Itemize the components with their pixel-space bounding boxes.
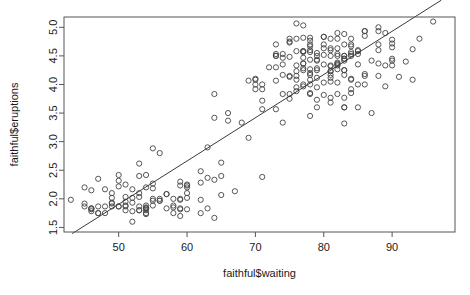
y-tick-label: 4.0: [47, 77, 59, 92]
y-tick-label: 1.5: [47, 220, 59, 235]
x-tick-label: 60: [181, 241, 193, 253]
figure-background: [0, 0, 470, 295]
y-tick-label: 3.0: [47, 134, 59, 149]
y-axis-title: faithful$eruptions: [8, 82, 20, 166]
plot-canvas: 5060708090 1.52.02.53.03.54.04.55.0 fait…: [0, 0, 470, 295]
x-tick-label: 70: [249, 241, 261, 253]
y-tick-label: 2.5: [47, 163, 59, 178]
y-tick-label: 3.5: [47, 105, 59, 120]
scatter-plot-figure: 5060708090 1.52.02.53.03.54.04.55.0 fait…: [0, 0, 470, 295]
y-tick-label: 2.0: [47, 191, 59, 206]
y-tick-label: 4.5: [47, 48, 59, 63]
x-axis-title: faithful$waiting: [223, 267, 296, 279]
x-tick-label: 50: [113, 241, 125, 253]
x-tick-label: 80: [318, 241, 330, 253]
x-tick-label: 90: [386, 241, 398, 253]
y-tick-label: 5.0: [47, 20, 59, 35]
